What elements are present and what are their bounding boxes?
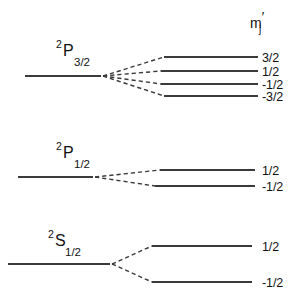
mj-header-prime: ′ — [262, 9, 265, 25]
term-j-s12: 1/2 — [65, 246, 81, 258]
term-multiplicity-p32: 2 — [56, 38, 62, 50]
term-multiplicity-s12: 2 — [48, 228, 54, 240]
mj-value-label-s12-1: -1/2 — [262, 276, 283, 289]
mj-value-label-p32-0: 3/2 — [262, 51, 279, 65]
mj-value-label-p12-1: -1/2 — [262, 180, 283, 194]
mj-value-label-p32-3: -3/2 — [262, 90, 283, 104]
term-multiplicity-p12: 2 — [56, 140, 62, 152]
mj-value-label-s12-0: 1/2 — [262, 240, 279, 254]
term-j-p32: 3/2 — [74, 56, 90, 68]
term-letter-p12: P — [63, 144, 74, 161]
mj-value-label-p32-1: 1/2 — [262, 65, 279, 79]
mj-value-label-p12-0: 1/2 — [262, 164, 279, 178]
term-letter-p32: P — [63, 42, 74, 59]
mj-header-subscript: j — [258, 24, 261, 35]
energy-level-diagram: mj′2P3/23/21/2-1/2-3/22P1/21/2-1/22S1/21… — [0, 0, 303, 289]
term-j-p12: 1/2 — [74, 158, 90, 170]
